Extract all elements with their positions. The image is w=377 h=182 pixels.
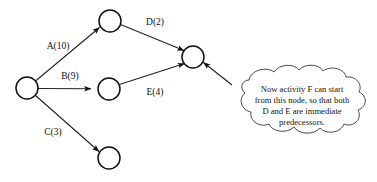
cloud-text-line-4: predecessors. [279,117,325,127]
cloud-text-line-3: D and E are immediate [262,106,341,116]
top-node[interactable] [99,10,121,32]
edge-c-label: C(3) [44,127,61,138]
edge-a-label: A(10) [47,41,70,52]
middle-node[interactable] [98,78,120,100]
edge-d: D(2) [121,17,185,50]
cloud-text-line-2: from this node, so that both [255,95,350,105]
activity-network-diagram: A(10) B(9) C(3) D(2) E(4) Now a [0,0,377,182]
cloud-callout: Now activity F can start from this node,… [241,65,365,133]
edge-c-line [36,96,100,152]
edge-e: E(4) [120,64,185,99]
edge-d-label: D(2) [146,17,164,28]
start-node[interactable] [16,77,38,99]
cloud-text-line-1: Now activity F can start [261,84,344,94]
diagram-canvas: A(10) B(9) C(3) D(2) E(4) Now a [0,0,377,182]
callout-pointer-line [204,63,233,86]
edge-e-line [120,64,185,85]
merge-node[interactable] [182,46,204,68]
edge-e-label: E(4) [147,87,164,98]
callout-pointer [204,63,233,86]
edge-b-label: B(9) [61,71,78,82]
edge-d-line [121,25,185,51]
edge-b: B(9) [38,71,91,89]
edge-c: C(3) [36,96,100,152]
bottom-node[interactable] [98,147,120,169]
